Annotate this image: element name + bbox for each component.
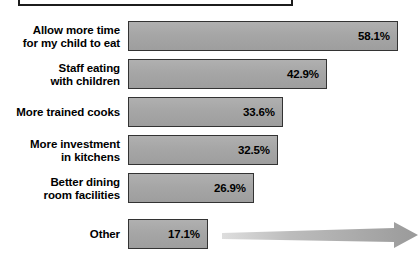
bar-better-dining-room-facilities[interactable]: 26.9% xyxy=(128,173,254,203)
bar-label: Staff eating with children xyxy=(0,62,120,89)
horizontal-bar-chart: Allow more time for my child to eat 58.1… xyxy=(0,0,418,265)
bar-label-line: in kitchens xyxy=(0,151,120,165)
bar-row: Allow more time for my child to eat 58.1… xyxy=(0,21,418,53)
bar-track: 42.9% xyxy=(128,59,327,89)
bar-label-line: with children xyxy=(0,75,120,89)
bar-label-line: for my child to eat xyxy=(0,37,120,51)
bar-label-line: Staff eating xyxy=(0,62,120,76)
bar-value-label: 58.1% xyxy=(358,30,397,42)
bar-track: 33.6% xyxy=(128,97,283,127)
bar-track: 17.1% xyxy=(128,219,208,249)
bar-label: Other xyxy=(0,228,120,242)
bar-more-investment-in-kitchens[interactable]: 32.5% xyxy=(128,135,278,165)
bar-track: 32.5% xyxy=(128,135,278,165)
bar-label: More investment in kitchens xyxy=(0,138,120,165)
bar-row: Other 17.1% xyxy=(0,219,418,251)
bar-value-label: 32.5% xyxy=(238,144,277,156)
bar-allow-more-time[interactable]: 58.1% xyxy=(128,21,398,51)
bar-label-line: More trained cooks xyxy=(0,106,120,120)
bar-more-trained-cooks[interactable]: 33.6% xyxy=(128,97,283,127)
bar-label: Better dining room facilities xyxy=(0,176,120,203)
bar-label-line: Other xyxy=(0,228,120,242)
bar-label-line: room facilities xyxy=(0,189,120,203)
bar-row: More investment in kitchens 32.5% xyxy=(0,135,418,167)
bar-value-label: 26.9% xyxy=(214,182,253,194)
bar-value-label: 42.9% xyxy=(287,68,326,80)
bar-value-label: 17.1% xyxy=(168,228,207,240)
bar-other[interactable]: 17.1% xyxy=(128,219,208,249)
bar-track: 58.1% xyxy=(128,21,398,51)
bar-value-label: 33.6% xyxy=(243,106,282,118)
bar-row: Staff eating with children 42.9% xyxy=(0,59,418,91)
bar-label: More trained cooks xyxy=(0,106,120,120)
bar-label-line: Allow more time xyxy=(0,24,120,38)
bar-staff-eating-with-children[interactable]: 42.9% xyxy=(128,59,327,89)
bar-row: Better dining room facilities 26.9% xyxy=(0,173,418,205)
bar-track: 26.9% xyxy=(128,173,254,203)
title-box xyxy=(18,0,293,6)
bar-label: Allow more time for my child to eat xyxy=(0,24,120,51)
bar-label-line: Better dining xyxy=(0,176,120,190)
bar-label-line: More investment xyxy=(0,138,120,152)
bar-row: More trained cooks 33.6% xyxy=(0,97,418,129)
